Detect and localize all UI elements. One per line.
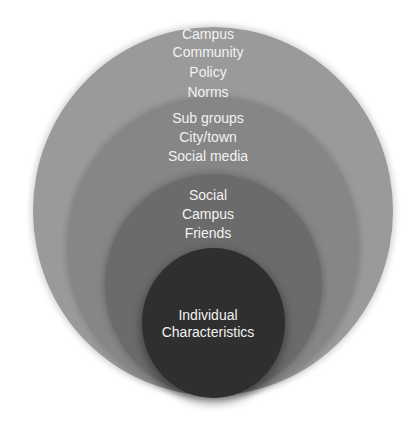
label-line: Campus — [0, 205, 416, 224]
outer-ring-label: Campus Community Policy Norms — [0, 25, 416, 101]
label-line: Norms — [0, 83, 416, 101]
label-line: Characteristics — [0, 324, 416, 341]
third-ring-label: Social Campus Friends — [0, 186, 416, 243]
label-line: Friends — [0, 224, 416, 243]
label-line: City/town — [0, 128, 416, 147]
second-ring-label: Sub groups City/town Social media — [0, 109, 416, 166]
label-line: Community — [0, 43, 416, 61]
label-line: Social — [0, 186, 416, 205]
label-line: Policy — [0, 63, 416, 81]
label-line: Individual — [0, 307, 416, 324]
inner-ring-label: Individual Characteristics — [0, 307, 416, 341]
label-line: Sub groups — [0, 109, 416, 128]
label-line: Social media — [0, 147, 416, 166]
nested-ecological-diagram: Campus Community Policy Norms Sub groups… — [0, 0, 416, 432]
label-line: Campus — [0, 25, 416, 43]
